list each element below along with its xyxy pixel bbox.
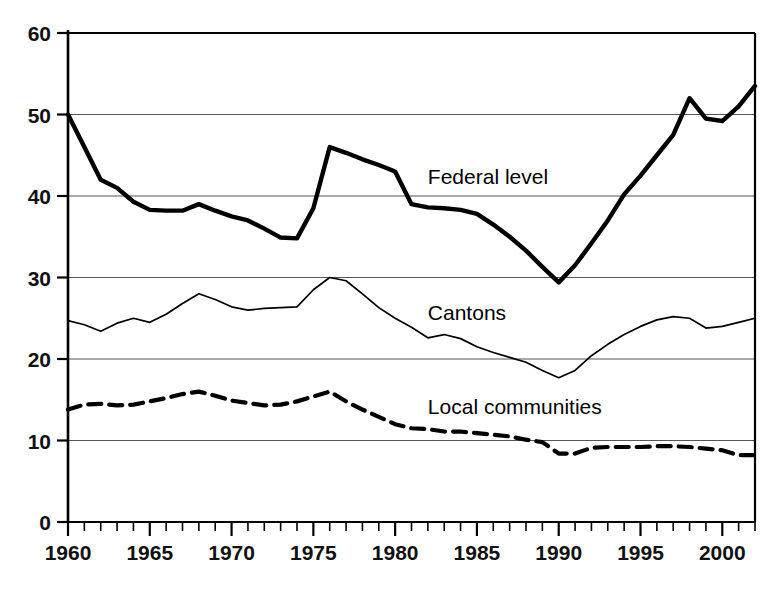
x-tick-label-2000: 2000 <box>699 541 746 564</box>
series-annotations: Federal levelCantonsLocal communities <box>428 165 602 419</box>
axes <box>68 30 755 522</box>
y-axis-tick-labels: 0102030405060 <box>28 22 51 534</box>
chart-container: 0102030405060 19601965197019751980198519… <box>0 0 771 592</box>
x-tick-label-1980: 1980 <box>372 541 419 564</box>
series-label-federal-level: Federal level <box>428 165 548 188</box>
x-tick-label-1975: 1975 <box>290 541 337 564</box>
gridlines <box>68 33 755 441</box>
y-tick-label-10: 10 <box>28 430 51 453</box>
data-series <box>68 86 755 455</box>
series-line-federal-level <box>68 86 755 282</box>
x-tick-label-1990: 1990 <box>535 541 582 564</box>
y-tick-label-50: 50 <box>28 104 51 127</box>
x-tick-label-1995: 1995 <box>617 541 664 564</box>
x-tick-label-1960: 1960 <box>45 541 92 564</box>
x-axis-tick-labels: 196019651970197519801985199019952000 <box>45 541 746 564</box>
series-label-local-communities: Local communities <box>428 395 602 418</box>
x-tick-label-1985: 1985 <box>454 541 501 564</box>
y-tick-label-60: 60 <box>28 22 51 45</box>
series-line-local-communities <box>68 392 755 456</box>
series-line-cantons <box>68 278 755 378</box>
x-tick-label-1965: 1965 <box>126 541 173 564</box>
y-axis-ticks <box>57 33 68 522</box>
y-tick-label-0: 0 <box>39 511 51 534</box>
series-label-cantons: Cantons <box>428 301 506 324</box>
y-tick-label-30: 30 <box>28 267 51 290</box>
y-tick-label-20: 20 <box>28 348 51 371</box>
x-tick-label-1970: 1970 <box>208 541 255 564</box>
x-axis-ticks <box>68 522 755 536</box>
y-tick-label-40: 40 <box>28 185 51 208</box>
line-chart: 0102030405060 19601965197019751980198519… <box>0 0 771 592</box>
